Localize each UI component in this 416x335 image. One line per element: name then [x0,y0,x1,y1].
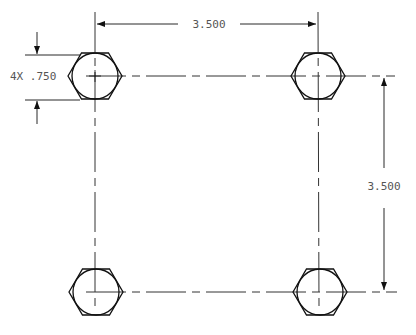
horizontal-dimension-label: 3.500 [192,18,225,31]
vertical-dimension-label: 3.500 [367,180,400,193]
hole-size-label: 4X .750 [10,70,56,83]
bolt-pattern-drawing: 3.500 3.500 4X .750 [0,0,416,335]
centerlines [86,12,397,306]
